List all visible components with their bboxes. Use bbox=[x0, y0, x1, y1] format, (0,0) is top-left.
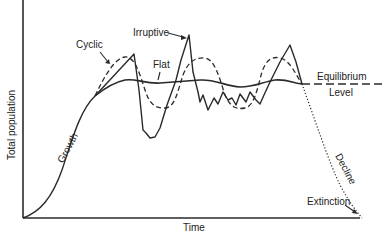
y-axis-label: Total population bbox=[7, 90, 17, 160]
cyclic-label: Cyclic bbox=[76, 40, 103, 50]
irruptive-curve bbox=[95, 35, 302, 138]
irruptive-label: Irruptive bbox=[133, 28, 169, 38]
cyclic-curve bbox=[95, 57, 302, 109]
equilibrium-label: Equilibrium bbox=[317, 72, 366, 82]
extinction-label: Extinction bbox=[307, 197, 350, 207]
cyclic-leader-arrow bbox=[100, 52, 108, 62]
x-axis-label: Time bbox=[183, 223, 205, 233]
extinction-arrowhead-icon bbox=[352, 209, 358, 214]
flat-label: Flat bbox=[153, 60, 170, 70]
flat-leader-arrow bbox=[158, 72, 160, 80]
irruptive-arrowhead-icon bbox=[181, 35, 187, 40]
irruptive-leader-arrow bbox=[168, 33, 183, 37]
level-label: Level bbox=[329, 88, 353, 98]
